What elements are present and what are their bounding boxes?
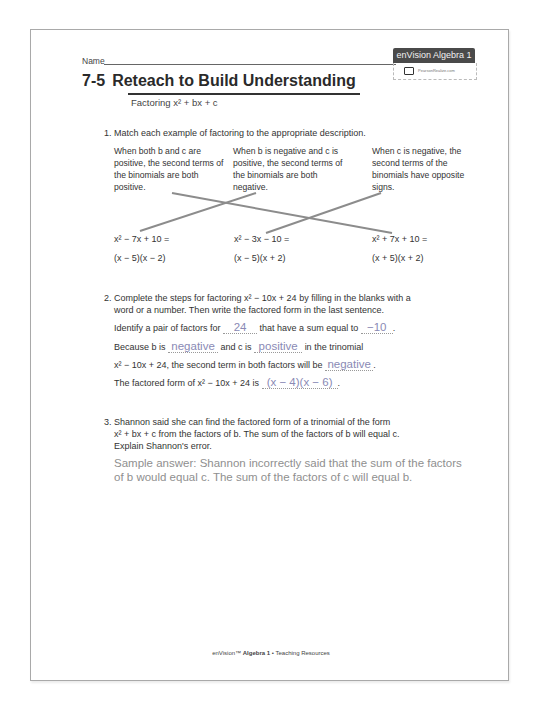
- q3-number: 3.: [104, 417, 112, 427]
- q2-step2-text-c: in the trinomial: [305, 342, 364, 352]
- q2-step2-text-a: Because b is: [114, 342, 166, 352]
- q1-example-1-factored: (x − 5)(x − 2): [114, 252, 166, 264]
- q3-answer[interactable]: Sample answer: Shannon incorrectly said …: [114, 456, 474, 484]
- q1-example-3-factored: (x + 5)(x + 2): [372, 252, 424, 264]
- q1-example-1-expr: x² − 7x + 10 =: [114, 233, 169, 245]
- q2-blank-c-sign[interactable]: positive: [254, 341, 302, 353]
- q2-step2: Because b is negative and c is positive …: [114, 341, 363, 353]
- q2-prompt: 2. Complete the steps for factoring x² −…: [104, 292, 411, 304]
- q2-blank-second-term[interactable]: negative: [325, 359, 373, 371]
- q3-line3: Explain Shannon's error.: [114, 440, 212, 452]
- q2-step2-text-b: and c is: [221, 342, 252, 352]
- q2-blank-factored-form[interactable]: (x − 4)(x − 6): [262, 377, 338, 389]
- q3-prompt: 3. Shannon said she can find the factore…: [104, 416, 390, 428]
- q2-step3: x² − 10x + 24, the second term in both f…: [114, 359, 376, 371]
- q2-step4: The factored form of x² − 10x + 24 is (x…: [114, 377, 340, 389]
- q1-example-2-factored: (x − 5)(x + 2): [234, 252, 286, 264]
- q2-step1-text-b: that have a sum equal to: [260, 323, 359, 333]
- q2-step1: Identify a pair of factors for 24 that h…: [114, 322, 395, 334]
- footer-brand: enVision™: [212, 650, 241, 656]
- q3-line1: Shannon said she can find the factored f…: [114, 417, 390, 427]
- q2-prompt-line1: Complete the steps for factoring x² − 10…: [114, 293, 411, 303]
- q2-prompt-line2: word or a number. Then write the factore…: [114, 304, 384, 316]
- q2-blank-factors[interactable]: 24: [223, 322, 257, 334]
- footer-section: Teaching Resources: [275, 650, 329, 656]
- q3-line2: x² + bx + c from the factors of b. The s…: [114, 428, 399, 440]
- q2-blank-b-sign[interactable]: negative: [168, 341, 218, 353]
- q1-example-3-expr: x² + 7x + 10 =: [372, 233, 427, 245]
- q2-number: 2.: [104, 293, 112, 303]
- footer-book: Algebra 1: [243, 650, 270, 656]
- q2-blank-sum[interactable]: −10: [361, 322, 393, 334]
- page-footer: enVision™ Algebra 1 • Teaching Resources: [0, 650, 542, 656]
- q2-step1-text-a: Identify a pair of factors for: [114, 323, 221, 333]
- footer-separator: •: [272, 650, 274, 656]
- q1-example-2-expr: x² − 3x − 10 =: [234, 233, 289, 245]
- q2-step4-text: The factored form of x² − 10x + 24 is: [114, 378, 259, 388]
- q2-step3-text: x² − 10x + 24, the second term in both f…: [114, 360, 323, 370]
